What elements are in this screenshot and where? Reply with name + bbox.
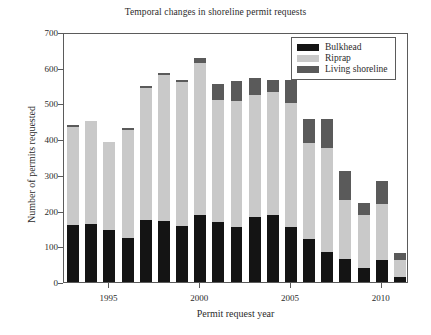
bar-segment-living-shoreline-1997 xyxy=(140,86,152,88)
bar-segment-bulkhead-2006 xyxy=(303,239,315,282)
legend-swatch-bulkhead xyxy=(297,44,319,51)
bar-segment-riprap-1999 xyxy=(176,82,188,226)
bar-segment-riprap-2003 xyxy=(249,95,261,217)
bar-segment-riprap-2010 xyxy=(376,204,388,260)
bar-segment-living-shoreline-2001 xyxy=(212,84,224,100)
bar-stack-1994 xyxy=(85,121,97,282)
bar-segment-bulkhead-1999 xyxy=(176,226,188,282)
bar-stack-2001 xyxy=(212,84,224,282)
bar-segment-bulkhead-2002 xyxy=(231,227,243,282)
bar-stack-1998 xyxy=(158,73,170,282)
y-tick-label: 500 xyxy=(45,99,59,109)
y-tick-label: 400 xyxy=(45,135,59,145)
bar-segment-riprap-2009 xyxy=(358,215,370,269)
bar-stack-1999 xyxy=(176,80,188,282)
bar-segment-bulkhead-1998 xyxy=(158,221,170,282)
bar-segment-riprap-2002 xyxy=(231,101,243,227)
x-tick-mark xyxy=(290,283,291,288)
x-tick-label: 1995 xyxy=(99,293,117,303)
bar-segment-living-shoreline-2004 xyxy=(267,80,279,93)
bar-segment-bulkhead-2010 xyxy=(376,260,388,282)
bar-segment-living-shoreline-1996 xyxy=(122,128,134,129)
y-tick-label: 100 xyxy=(45,242,59,252)
bar-segment-living-shoreline-2008 xyxy=(339,171,351,200)
x-tick-mark xyxy=(381,283,382,288)
bar-segment-bulkhead-2007 xyxy=(321,252,333,282)
y-tick-label: 300 xyxy=(45,171,59,181)
bar-segment-riprap-1995 xyxy=(103,142,115,230)
bar-stack-1993 xyxy=(67,125,79,282)
bar-segment-riprap-1996 xyxy=(122,130,134,238)
bar-segment-living-shoreline-2005 xyxy=(285,80,297,104)
bar-stack-1996 xyxy=(122,128,134,282)
bar-segment-riprap-2001 xyxy=(212,100,224,222)
bar-segment-bulkhead-1997 xyxy=(140,220,152,282)
bar-segment-living-shoreline-2000 xyxy=(194,58,206,63)
bar-stack-2003 xyxy=(249,78,261,282)
bar-stack-2007 xyxy=(321,119,333,282)
chart-title: Temporal changes in shoreline permit req… xyxy=(0,7,431,17)
bar-segment-living-shoreline-2009 xyxy=(358,203,370,214)
y-tick-label: 600 xyxy=(45,64,59,74)
bar-stack-2000 xyxy=(194,58,206,282)
legend-item-riprap: Riprap xyxy=(297,53,388,64)
legend-swatch-living-shoreline xyxy=(297,66,319,73)
bar-stack-2011 xyxy=(394,253,406,282)
bar-segment-living-shoreline-2011 xyxy=(394,253,406,259)
bar-segment-bulkhead-2008 xyxy=(339,259,351,282)
bar-segment-bulkhead-2004 xyxy=(267,215,279,282)
bar-segment-riprap-1998 xyxy=(158,75,170,221)
bar-segment-living-shoreline-2010 xyxy=(376,181,388,204)
bar-segment-bulkhead-1993 xyxy=(67,225,79,282)
bar-segment-living-shoreline-2007 xyxy=(321,119,333,149)
bar-segment-riprap-2007 xyxy=(321,148,333,252)
legend-swatch-riprap xyxy=(297,55,319,62)
bar-segment-bulkhead-1995 xyxy=(103,230,115,283)
chart-figure: Temporal changes in shoreline permit req… xyxy=(0,0,431,335)
y-tick-label: 200 xyxy=(45,207,59,217)
bar-stack-2002 xyxy=(231,81,243,282)
bar-segment-living-shoreline-2002 xyxy=(231,81,243,101)
x-axis-label: Permit request year xyxy=(63,308,408,319)
bar-stack-2008 xyxy=(339,171,351,282)
x-tick-mark xyxy=(108,283,109,288)
legend-item-living-shoreline: Living shoreline xyxy=(297,64,388,75)
bar-segment-bulkhead-2000 xyxy=(194,215,206,282)
bar-stack-1997 xyxy=(140,86,152,282)
bar-segment-riprap-1997 xyxy=(140,88,152,220)
bar-segment-bulkhead-2009 xyxy=(358,268,370,282)
y-axis-label: Number of permits requested xyxy=(26,40,37,290)
x-axis: Permit request year 1995200020052010 xyxy=(63,283,408,323)
x-tick-label: 2010 xyxy=(372,293,390,303)
bar-stack-2004 xyxy=(267,80,279,282)
legend-item-bulkhead: Bulkhead xyxy=(297,42,388,53)
bar-segment-bulkhead-1996 xyxy=(122,238,134,282)
bar-segment-living-shoreline-1999 xyxy=(176,80,188,82)
bar-segment-riprap-1993 xyxy=(67,127,79,225)
bar-segment-bulkhead-2005 xyxy=(285,227,297,282)
x-tick-label: 2000 xyxy=(190,293,208,303)
bar-segment-bulkhead-2003 xyxy=(249,217,261,282)
bar-stack-2005 xyxy=(285,80,297,283)
legend-label: Bulkhead xyxy=(325,42,361,53)
bar-stack-2009 xyxy=(358,203,370,282)
bar-stack-1995 xyxy=(103,142,115,282)
bar-segment-bulkhead-2011 xyxy=(394,277,406,282)
bar-segment-riprap-1994 xyxy=(85,121,97,224)
x-tick-label: 2005 xyxy=(281,293,299,303)
y-tick-label: 700 xyxy=(45,28,59,38)
legend-label: Living shoreline xyxy=(325,64,388,75)
bar-segment-living-shoreline-2003 xyxy=(249,78,261,95)
y-axis: Number of permits requested 010020030040… xyxy=(0,33,63,283)
bar-stack-2010 xyxy=(376,181,388,282)
bar-segment-bulkhead-1994 xyxy=(85,224,97,282)
bar-segment-living-shoreline-1998 xyxy=(158,73,170,75)
bar-segment-living-shoreline-2006 xyxy=(303,119,315,143)
legend-label: Riprap xyxy=(325,53,351,64)
bar-segment-bulkhead-2001 xyxy=(212,222,224,282)
chart-legend: BulkheadRiprapLiving shoreline xyxy=(291,37,396,80)
bar-segment-living-shoreline-1993 xyxy=(67,125,79,127)
bar-segment-riprap-2011 xyxy=(394,260,406,278)
bar-stack-2006 xyxy=(303,119,315,282)
x-tick-mark xyxy=(199,283,200,288)
